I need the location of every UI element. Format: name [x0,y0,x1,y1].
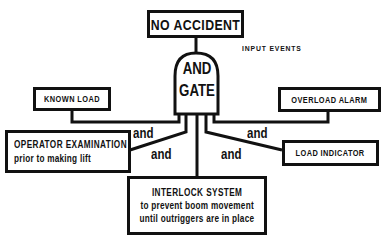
output-label: NO ACCIDENT [151,16,240,33]
load-indicator-title: LOAD INDICATOR [296,148,365,158]
and-gate: AND GATE [179,58,215,102]
input-overload-alarm: OVERLOAD ALARM [278,87,381,112]
interlock-subtitle2: until outriggers are in place [140,213,255,224]
gate-line1: AND [179,58,215,80]
interlock-title: INTERLOCK SYSTEM [152,187,242,198]
and-connector-right-bottom: and [221,146,241,162]
and-connector-operator: and [133,125,153,141]
input-load-indicator: LOAD INDICATOR [282,140,379,166]
and-connector-load-indicator: and [247,125,267,141]
input-interlock-system: INTERLOCK SYSTEM to prevent boom movemen… [127,176,267,235]
known-load-title: KNOWN LOAD [44,94,100,104]
input-events-label: INPUT EVENTS [242,44,302,53]
input-known-load: KNOWN LOAD [33,87,111,111]
gate-line2: GATE [179,80,215,102]
interlock-subtitle: to prevent boom movement [140,200,253,211]
operator-title: OPERATOR EXAMINATION [14,139,127,150]
input-operator-examination: OPERATOR EXAMINATION prior to making lif… [5,130,131,173]
output-event-no-accident: NO ACCIDENT [147,10,244,38]
overload-alarm-title: OVERLOAD ALARM [291,95,367,105]
and-connector-left-bottom: and [151,146,171,162]
operator-subtitle: prior to making lift [14,153,91,164]
